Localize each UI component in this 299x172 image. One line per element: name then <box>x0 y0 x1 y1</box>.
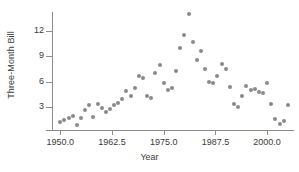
y-tick-label: 12 <box>26 25 44 35</box>
scatter-point <box>174 69 178 73</box>
scatter-point <box>199 49 203 53</box>
y-tick-mark <box>46 31 52 32</box>
scatter-point <box>195 58 199 62</box>
scatter-point <box>149 96 153 100</box>
scatter-point <box>273 117 277 121</box>
scatter-point <box>286 103 290 107</box>
scatter-point <box>187 12 191 16</box>
scatter-chart: Three-Month Bill 36912 1950.01962.51975.… <box>0 0 299 172</box>
scatter-point <box>240 94 244 98</box>
scatter-point <box>120 97 124 101</box>
scatter-point <box>87 103 91 107</box>
scatter-point <box>116 101 120 105</box>
y-tick-mark <box>46 82 52 83</box>
x-tick-mark <box>112 130 113 135</box>
scatter-point <box>162 81 166 85</box>
scatter-point <box>133 86 137 90</box>
scatter-point <box>182 33 186 37</box>
scatter-point <box>153 71 157 75</box>
scatter-point <box>62 118 66 122</box>
scatter-point <box>75 123 79 127</box>
scatter-point <box>158 63 162 67</box>
x-tick-label: 1962.5 <box>89 137 135 147</box>
x-tick-mark <box>60 130 61 135</box>
x-axis-label: Year <box>0 152 299 162</box>
scatter-point <box>108 107 112 111</box>
x-tick-label: 1975.0 <box>141 137 187 147</box>
scatter-point <box>91 115 95 119</box>
x-axis-line <box>46 130 294 131</box>
scatter-point <box>129 94 133 98</box>
scatter-point <box>96 102 100 106</box>
x-tick-mark <box>215 130 216 135</box>
scatter-point <box>228 85 232 89</box>
scatter-point <box>178 46 182 50</box>
x-tick-label: 2000.0 <box>244 137 290 147</box>
scatter-point <box>191 40 195 44</box>
scatter-point <box>79 116 83 120</box>
x-tick-mark <box>164 130 165 135</box>
scatter-point <box>215 74 219 78</box>
scatter-point <box>244 84 248 88</box>
scatter-point <box>100 106 104 110</box>
y-tick-mark <box>46 107 52 108</box>
scatter-point <box>224 67 228 71</box>
scatter-point <box>261 91 265 95</box>
scatter-point <box>249 88 253 92</box>
x-tick-label: 1950.0 <box>37 137 83 147</box>
scatter-point <box>278 122 282 126</box>
scatter-point <box>220 62 224 66</box>
y-tick-label: 3 <box>26 101 44 111</box>
y-axis-line <box>52 12 53 130</box>
scatter-point <box>236 105 240 109</box>
y-tick-label: 9 <box>26 50 44 60</box>
y-axis-label: Three-Month Bill <box>2 0 20 130</box>
scatter-point <box>67 116 71 120</box>
scatter-point <box>269 102 273 106</box>
scatter-point <box>282 119 286 123</box>
scatter-point <box>265 81 269 85</box>
scatter-point <box>203 67 207 71</box>
scatter-point <box>211 81 215 85</box>
y-tick-label: 6 <box>26 76 44 86</box>
scatter-point <box>124 89 128 93</box>
y-tick-mark <box>46 56 52 57</box>
scatter-point <box>71 114 75 118</box>
scatter-point <box>141 76 145 80</box>
scatter-point <box>104 110 108 114</box>
scatter-point <box>83 108 87 112</box>
x-tick-label: 1987.5 <box>192 137 238 147</box>
scatter-point <box>170 86 174 90</box>
x-tick-mark <box>267 130 268 135</box>
